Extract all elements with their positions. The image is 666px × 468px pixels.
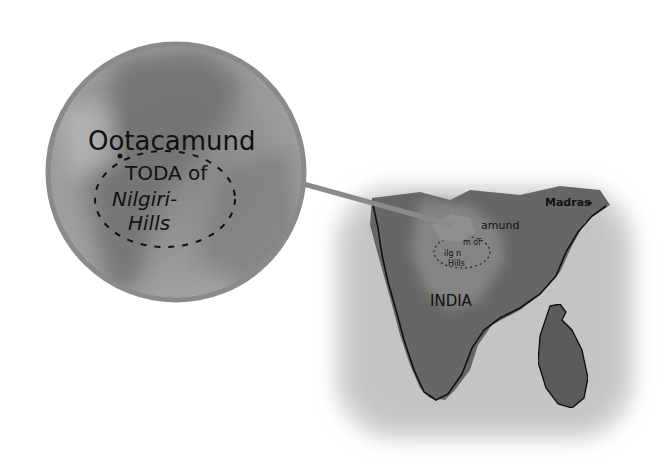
madras-marker	[588, 201, 592, 205]
inset-region-line-2: Nilgiri-	[112, 187, 177, 211]
inset-region-line-3: Hills	[128, 211, 170, 235]
main-region-label-1: m of	[463, 238, 481, 247]
madras-label: Madras	[545, 196, 591, 209]
ootacamund-marker	[118, 154, 123, 159]
map-illustration: amund m of ilg n Hills INDIA Madras Oota…	[0, 0, 666, 468]
magnifier-inset: Ootacamund TODA of Nilgiri- Hills	[48, 44, 304, 300]
inset-city-label: Ootacamund	[88, 126, 256, 156]
main-city-label: amund	[481, 219, 519, 232]
country-label: INDIA	[430, 292, 473, 310]
main-region-label-2: ilg n	[444, 249, 461, 258]
main-region-label-3: Hills	[448, 259, 465, 268]
inset-region-line-1: TODA of	[124, 161, 208, 185]
